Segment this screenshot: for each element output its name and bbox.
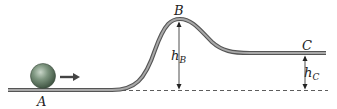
point-c-label: C xyxy=(302,38,312,53)
point-a-label: A xyxy=(36,94,46,109)
track xyxy=(8,19,326,90)
ball xyxy=(31,64,56,89)
height-b-label: hB xyxy=(171,48,186,65)
diagram-canvas: A B C hB hC xyxy=(0,0,337,109)
point-b-label: B xyxy=(173,3,184,18)
roller-track-diagram: A B C hB hC xyxy=(0,0,337,109)
motion-arrow-icon xyxy=(60,73,80,81)
height-c-label: hC xyxy=(304,65,319,82)
